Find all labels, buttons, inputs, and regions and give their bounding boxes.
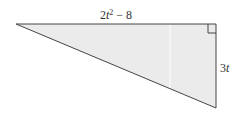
top-side-label: 2t2 − 8: [100, 8, 132, 22]
right-side-label: 3t: [220, 61, 230, 75]
triangle-diagram: 2t2 − 8 3t: [0, 0, 241, 118]
